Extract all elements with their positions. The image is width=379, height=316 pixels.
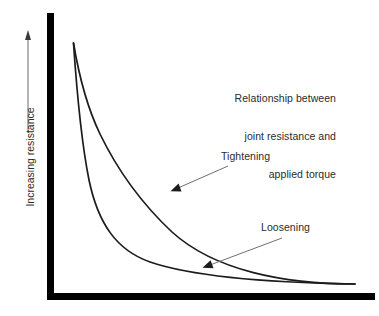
caption-line-1: Relationship between [205, 92, 336, 105]
caption-line-2: joint resistance and [205, 130, 336, 143]
curve-label-tightening: Tightening [221, 150, 270, 163]
x-axis-line [47, 293, 375, 300]
y-axis-label-container: Increasing resistance [20, 101, 38, 213]
caption-line-3: applied torque [205, 168, 336, 181]
chart-caption: Relationship between joint resistance an… [205, 67, 336, 206]
curve-label-loosening: Loosening [261, 221, 310, 234]
y-axis-label: Increasing resistance [24, 107, 36, 206]
figure-container: Relationship between joint resistance an… [0, 0, 379, 316]
annotation-arrow-loosening [203, 238, 283, 268]
y-axis-line [47, 13, 54, 300]
